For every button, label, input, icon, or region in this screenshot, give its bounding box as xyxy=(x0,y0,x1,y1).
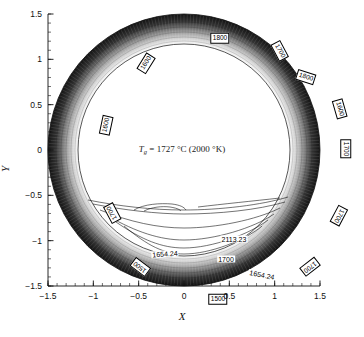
y-axis-title: Y xyxy=(0,165,11,171)
x-tick-label: 0 xyxy=(182,291,187,301)
x-tick-label: 1 xyxy=(272,291,277,301)
x-tick-label: 0.5 xyxy=(223,291,235,301)
y-tick-label: 1 xyxy=(12,54,42,64)
y-tick-label: 0.5 xyxy=(12,100,42,110)
x-tick-label: 1.5 xyxy=(314,291,326,301)
axis-lines xyxy=(0,0,364,337)
contour-plot-figure: 1800170016001800160016001700170017001500… xyxy=(0,0,364,337)
y-tick-label: −0.5 xyxy=(12,190,42,200)
center-annotation: Tg = 1727 °C (2000 °K) xyxy=(0,144,364,155)
y-tick-label: −1.5 xyxy=(12,281,42,291)
x-axis-title: X xyxy=(0,310,364,322)
tg-value: = 1727 °C (2000 °K) xyxy=(147,144,225,154)
x-tick-label: −0.5 xyxy=(130,291,147,301)
x-tick-label: −1.5 xyxy=(40,291,57,301)
y-tick-label: 1.5 xyxy=(12,9,42,19)
x-tick-label: −1 xyxy=(88,291,98,301)
y-tick-label: −1 xyxy=(12,236,42,246)
